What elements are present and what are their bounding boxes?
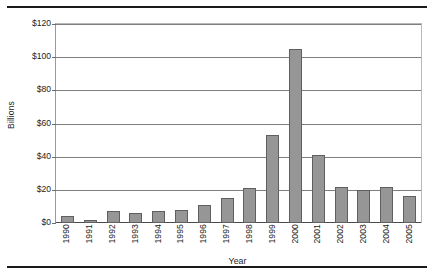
bar: [175, 210, 188, 223]
x-axis-tick-label: 2005: [404, 224, 414, 244]
y-axis-tick-label: $40: [8, 151, 51, 161]
x-axis-tick-label: 2004: [381, 224, 391, 244]
bar: [61, 216, 74, 223]
x-tick-slot: 1991: [78, 224, 101, 256]
x-tick-slot: 2003: [352, 224, 375, 256]
bar-slot: [307, 24, 330, 223]
x-axis-tick-labels: 1990199119921993199419951996199719981999…: [55, 224, 420, 256]
x-tick-slot: 2001: [306, 224, 329, 256]
bottom-divider-rule: [7, 266, 427, 268]
x-axis-tick-label: 1999: [267, 224, 277, 244]
bar: [312, 155, 325, 223]
bar-slot: [353, 24, 376, 223]
y-axis-tick-label: $120: [8, 18, 51, 28]
bar-slot: [398, 24, 421, 223]
bar: [380, 187, 393, 223]
bar: [357, 190, 370, 223]
bar-slot: [216, 24, 239, 223]
y-axis-tick-label: $20: [8, 184, 51, 194]
top-divider-rule: [7, 6, 427, 8]
y-axis-tick-label: $0: [8, 217, 51, 227]
y-axis-tick-label: $80: [8, 84, 51, 94]
bar-slot: [375, 24, 398, 223]
x-axis-tick-label: 1991: [84, 224, 94, 244]
bar: [84, 220, 97, 223]
bar: [243, 188, 256, 223]
x-axis-tick-label: 1990: [61, 224, 71, 244]
bar: [403, 196, 416, 223]
bar-slot: [124, 24, 147, 223]
x-axis-tick-label: 1996: [198, 224, 208, 244]
bar-slot: [147, 24, 170, 223]
bar-slot: [102, 24, 125, 223]
x-tick-slot: 1999: [260, 224, 283, 256]
x-axis-tick-label: 1993: [130, 224, 140, 244]
bar: [335, 187, 348, 223]
x-axis-tick-label: 1998: [244, 224, 254, 244]
bar: [221, 198, 234, 223]
bar-slot: [239, 24, 262, 223]
bar-slot: [56, 24, 79, 223]
x-axis-tick-label: 2001: [312, 224, 322, 244]
x-tick-slot: 1996: [192, 224, 215, 256]
bar-slot: [330, 24, 353, 223]
bar: [129, 213, 142, 223]
y-axis-tick-label: $60: [8, 118, 51, 128]
bar: [266, 135, 279, 223]
y-axis-tick-labels: $0$20$40$60$80$100$120: [8, 23, 51, 222]
bar-slot: [79, 24, 102, 223]
x-tick-slot: 1990: [55, 224, 78, 256]
x-tick-slot: 2005: [397, 224, 420, 256]
x-axis-title: Year: [55, 256, 420, 266]
x-tick-slot: 1993: [123, 224, 146, 256]
x-tick-slot: 1998: [238, 224, 261, 256]
x-axis-tick-label: 1994: [153, 224, 163, 244]
bar-slot: [284, 24, 307, 223]
x-tick-slot: 2004: [374, 224, 397, 256]
bar-slot: [170, 24, 193, 223]
bar: [289, 49, 302, 223]
plot-area: [55, 23, 422, 223]
x-axis-tick-label: 1992: [107, 224, 117, 244]
x-axis-tick-label: 2003: [358, 224, 368, 244]
x-tick-slot: 2002: [329, 224, 352, 256]
x-axis-tick-label: 1995: [175, 224, 185, 244]
chart-figure: Billions $0$20$40$60$80$100$120 19901991…: [0, 0, 434, 276]
x-axis-tick-label: 2002: [335, 224, 345, 244]
x-axis-tick-label: 1997: [221, 224, 231, 244]
bar: [198, 205, 211, 223]
bar: [107, 211, 120, 223]
y-axis-tick-label: $100: [8, 51, 51, 61]
x-tick-slot: 1992: [101, 224, 124, 256]
bar-slot: [261, 24, 284, 223]
bar-slot: [193, 24, 216, 223]
x-axis-tick-label: 2000: [290, 224, 300, 244]
x-tick-slot: 1995: [169, 224, 192, 256]
x-tick-slot: 1997: [215, 224, 238, 256]
x-tick-slot: 1994: [146, 224, 169, 256]
x-tick-slot: 2000: [283, 224, 306, 256]
bar-series: [56, 24, 421, 223]
bar: [152, 211, 165, 223]
